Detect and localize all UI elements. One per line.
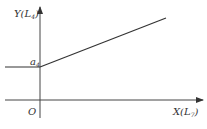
rising-segment: [40, 18, 166, 67]
intercept-label: a4: [30, 56, 40, 68]
origin-label: O: [28, 106, 36, 117]
diagram-canvas: Y(L4) a4 O X(L7): [0, 0, 207, 129]
x-axis-label: X(L7): [172, 106, 199, 118]
y-axis-label: Y(L4): [14, 8, 39, 20]
